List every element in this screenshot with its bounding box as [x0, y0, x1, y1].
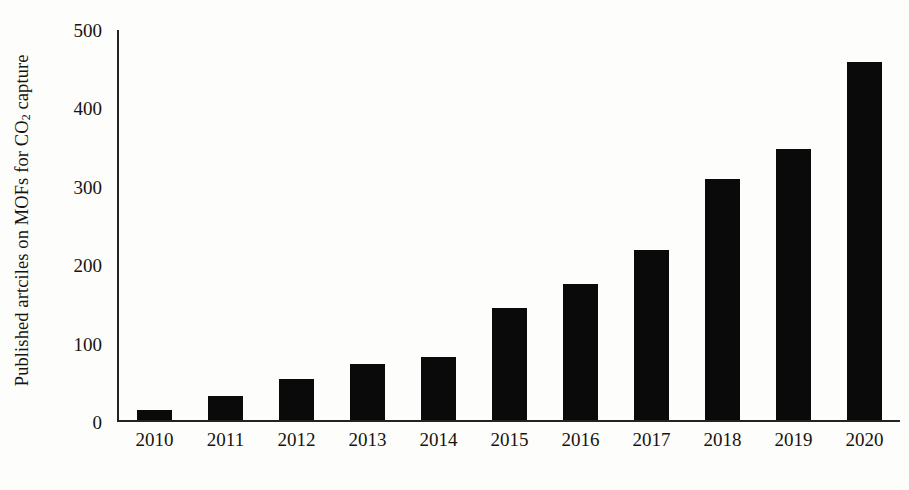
y-axis-tick-labels: 0100200300400500 — [46, 0, 110, 440]
y-axis-title-subscript: 2 — [19, 114, 33, 120]
y-axis-title-text-before: Published artciles on MOFs for CO — [12, 120, 32, 386]
bar — [492, 308, 527, 420]
bar — [279, 379, 314, 420]
y-axis-title: Published artciles on MOFs for CO2 captu… — [0, 0, 46, 440]
bar — [634, 250, 669, 420]
y-axis-title-text: Published artciles on MOFs for CO2 captu… — [12, 54, 35, 386]
x-axis-tick-label: 2017 — [616, 428, 688, 452]
y-axis-tick-label: 400 — [74, 99, 103, 118]
x-axis-tick-label: 2012 — [261, 428, 333, 452]
x-axis-line — [117, 420, 900, 422]
bar — [705, 179, 740, 420]
x-axis-tick-label: 2019 — [758, 428, 830, 452]
x-axis-tick-label: 2013 — [332, 428, 404, 452]
bar — [208, 396, 243, 420]
x-axis-tick-labels: 2010201120122013201420152016201720182019… — [119, 428, 900, 462]
y-axis-title-text-after: capture — [12, 54, 32, 114]
bars-layer — [119, 28, 900, 420]
bar — [563, 284, 598, 420]
y-axis-tick-label: 0 — [93, 413, 103, 432]
plot-area — [110, 28, 900, 422]
y-axis-tick-label: 500 — [74, 21, 103, 40]
y-axis-tick-label: 200 — [74, 256, 103, 275]
x-axis-tick-label: 2015 — [474, 428, 546, 452]
bar — [137, 410, 172, 420]
bar — [350, 364, 385, 420]
bar — [776, 149, 811, 420]
x-axis-tick-label: 2010 — [119, 428, 191, 452]
y-axis-tick-label: 100 — [74, 334, 103, 353]
bar — [421, 357, 456, 420]
x-axis-tick-label: 2011 — [190, 428, 262, 452]
x-axis-tick-label: 2014 — [403, 428, 475, 452]
x-axis-tick-label: 2018 — [687, 428, 759, 452]
bar — [847, 62, 882, 420]
x-axis-tick-label: 2016 — [545, 428, 617, 452]
bar-chart-figure: Published artciles on MOFs for CO2 captu… — [0, 0, 909, 490]
y-axis-tick-label: 300 — [74, 177, 103, 196]
x-axis-tick-label: 2020 — [829, 428, 901, 452]
